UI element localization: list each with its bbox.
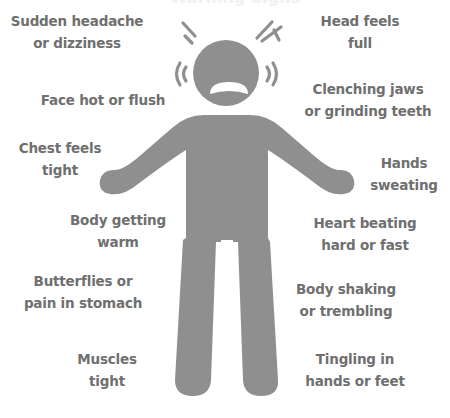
right-leg-icon [233,238,278,396]
head-icon [193,40,259,106]
label-sudden-headache: Sudden headache or dizziness [11,10,144,54]
label-face-hot: Face hot or flush [41,89,165,111]
label-line: warm [70,231,166,253]
label-line: Tingling in [305,348,404,370]
label-line: Clenching jaws [305,78,432,100]
label-line: or dizziness [11,32,144,54]
label-line: Body getting [70,209,166,231]
label-chest-tight: Chest feels tight [19,137,102,181]
strain-lines-left-icon [177,23,196,85]
strain-lines-right-icon [257,22,281,85]
label-tingling: Tingling in hands or feet [305,348,404,392]
label-body-warm: Body getting warm [70,209,166,253]
label-line: Face hot or flush [41,89,165,111]
label-line: or grinding teeth [305,100,432,122]
label-line: Butterflies or [24,270,142,292]
label-line: pain in stomach [24,292,142,314]
label-line: Body shaking [296,278,396,300]
label-line: full [321,32,400,54]
label-line: Heart beating [313,212,416,234]
label-heart-beating: Heart beating hard or fast [313,212,416,256]
label-line: Head feels [321,10,400,32]
label-line: tight [19,159,102,181]
label-line: hands or feet [305,370,404,392]
label-line: hard or fast [313,234,416,256]
label-line: sweating [370,174,438,196]
label-line: tight [77,370,137,392]
label-body-shaking: Body shaking or trembling [296,278,396,322]
left-leg-icon [175,238,221,396]
label-muscles-tight: Muscles tight [77,348,137,392]
label-butterflies-stomach: Butterflies or pain in stomach [24,270,142,314]
label-line: Hands [370,152,438,174]
label-head-full: Head feels full [321,10,400,54]
label-line: Muscles [77,348,137,370]
label-line: Sudden headache [11,10,144,32]
label-clenching-jaws: Clenching jaws or grinding teeth [305,78,432,122]
label-hands-sweating: Hands sweating [370,152,438,196]
label-line: or trembling [296,300,396,322]
label-line: Chest feels [19,137,102,159]
